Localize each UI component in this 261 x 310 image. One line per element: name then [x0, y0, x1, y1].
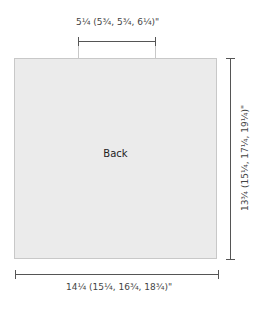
back-panel: Back — [14, 58, 217, 259]
bottom-width-label: 14¼ (15¼, 16¾, 18¾)" — [66, 282, 172, 292]
top-width-label: 5¼ (5¾, 5¾, 6¼)" — [76, 17, 159, 27]
top-dim-tick-right — [155, 37, 156, 46]
right-dim-tick-bottom — [226, 259, 235, 260]
bottom-dim-tick-right — [218, 270, 219, 279]
panel-label: Back — [15, 148, 216, 159]
right-dim-line — [230, 58, 231, 259]
height-label: 13¾ (15¼, 17¼, 19¼)" — [240, 103, 250, 213]
top-dim-line — [78, 41, 155, 42]
bottom-dim-line — [15, 274, 218, 275]
